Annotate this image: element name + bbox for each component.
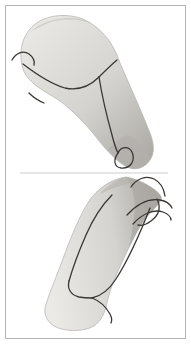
limb-figure-svg bbox=[0, 0, 191, 350]
top-curve-tick bbox=[29, 93, 44, 103]
panel-bottom-limb bbox=[45, 177, 172, 331]
panel-top-limb bbox=[12, 15, 153, 168]
figure-canvas bbox=[0, 0, 191, 350]
